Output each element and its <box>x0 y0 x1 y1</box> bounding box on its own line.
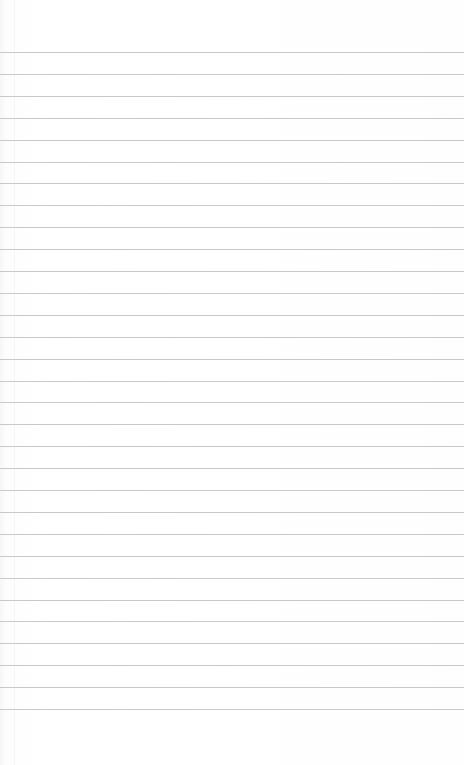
ruled-line <box>0 512 464 513</box>
ruled-line <box>0 140 464 141</box>
ruled-line <box>0 359 464 360</box>
ruled-line <box>0 621 464 622</box>
ruled-line <box>0 315 464 316</box>
ruled-line <box>0 337 464 338</box>
ruled-line <box>0 424 464 425</box>
ruled-line <box>0 578 464 579</box>
ruled-line <box>0 227 464 228</box>
ruled-line <box>0 600 464 601</box>
ruled-line <box>0 381 464 382</box>
ruled-line <box>0 249 464 250</box>
left-edge-shadow <box>14 0 15 765</box>
ruled-line <box>0 402 464 403</box>
ruled-line <box>0 446 464 447</box>
ruled-line <box>0 183 464 184</box>
ruled-line <box>0 687 464 688</box>
ruled-line <box>0 96 464 97</box>
ruled-line <box>0 52 464 53</box>
ruled-line <box>0 665 464 666</box>
ruled-line <box>0 534 464 535</box>
ruled-line <box>0 490 464 491</box>
ruled-line <box>0 643 464 644</box>
ruled-line <box>0 162 464 163</box>
ruled-line <box>0 293 464 294</box>
ruled-line <box>0 709 464 710</box>
ruled-line <box>0 205 464 206</box>
lined-paper-sheet <box>0 0 464 765</box>
ruled-line <box>0 556 464 557</box>
ruled-line <box>0 271 464 272</box>
ruled-line <box>0 118 464 119</box>
ruled-line <box>0 468 464 469</box>
ruled-line <box>0 74 464 75</box>
